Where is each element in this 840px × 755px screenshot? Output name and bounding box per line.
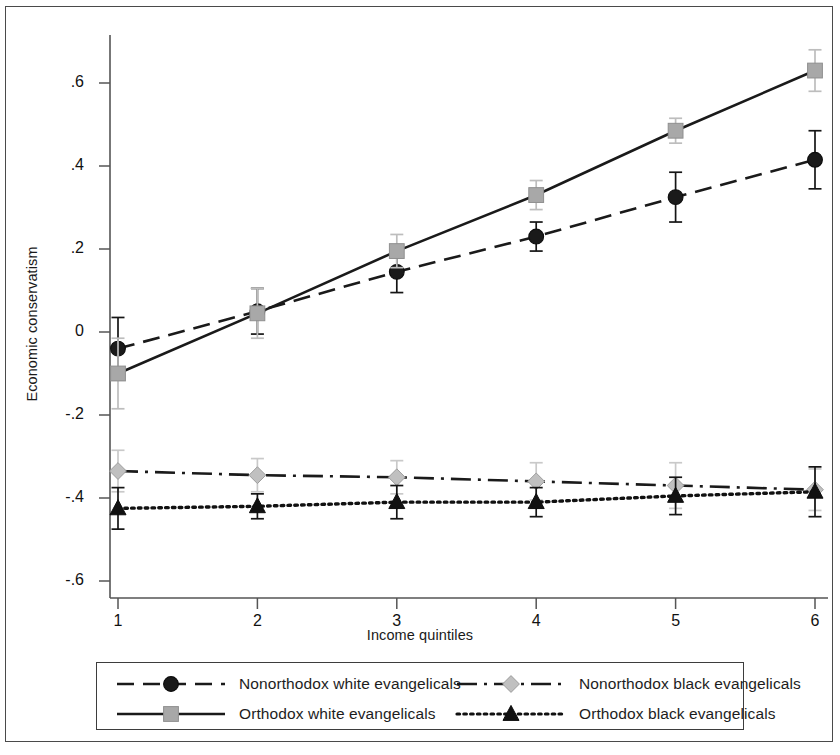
x-axis-tick-label: 5 — [656, 612, 696, 630]
data-point-marker — [668, 190, 683, 205]
chart-screenshot: Economic conservatism Income quintiles .… — [0, 0, 840, 755]
data-point-marker — [164, 707, 179, 722]
legend-marker-diamond-icon — [455, 673, 567, 695]
data-point-marker — [111, 366, 126, 381]
series-circle — [111, 131, 823, 380]
series-line — [118, 160, 815, 349]
chart-legend: Nonorthodox white evangelicalsOrthodox w… — [96, 662, 744, 730]
legend-marker-triangle-icon — [455, 703, 567, 725]
data-point-marker — [250, 306, 265, 321]
x-axis-tick-label: 2 — [237, 612, 277, 630]
series-square — [111, 50, 823, 409]
data-point-marker — [110, 463, 127, 480]
legend-entry: Orthodox white evangelicals — [115, 699, 436, 729]
y-axis-tick-label: -.6 — [32, 571, 84, 589]
y-axis-tick-label: -.4 — [32, 488, 84, 506]
legend-label: Orthodox black evangelicals — [579, 705, 776, 723]
data-point-marker — [503, 676, 520, 693]
data-point-marker — [529, 229, 544, 244]
legend-marker-circle-icon — [115, 673, 227, 695]
x-axis-tick-label: 4 — [516, 612, 556, 630]
y-axis-tick-label: -.2 — [32, 405, 84, 423]
data-point-marker — [389, 244, 404, 259]
data-point-marker — [808, 63, 823, 78]
y-axis-tick-label: .2 — [32, 239, 84, 257]
legend-marker-square-icon — [115, 703, 227, 725]
series-line — [118, 71, 815, 374]
series-line — [118, 471, 815, 490]
y-axis-tick-label: .4 — [32, 156, 84, 174]
y-axis-tick-label: 0 — [32, 322, 84, 340]
data-point-marker — [249, 467, 266, 484]
legend-entry: Nonorthodox white evangelicals — [115, 669, 461, 699]
series-triangle — [110, 467, 823, 529]
legend-entry: Orthodox black evangelicals — [455, 699, 776, 729]
legend-label: Nonorthodox white evangelicals — [239, 675, 461, 693]
series-line — [118, 492, 815, 509]
data-point-marker — [388, 469, 405, 486]
x-axis-tick-label: 1 — [98, 612, 138, 630]
x-axis-tick-label: 3 — [377, 612, 417, 630]
legend-entry: Nonorthodox black evangelicals — [455, 669, 801, 699]
data-point-marker — [164, 677, 179, 692]
data-point-marker — [668, 123, 683, 138]
x-axis-tick-label: 6 — [795, 612, 835, 630]
axes — [99, 35, 828, 609]
data-point-marker — [808, 152, 823, 167]
data-series-group — [110, 50, 824, 529]
data-point-marker — [529, 188, 544, 203]
legend-label: Nonorthodox black evangelicals — [579, 675, 801, 693]
legend-label: Orthodox white evangelicals — [239, 705, 436, 723]
y-axis-tick-label: .6 — [32, 73, 84, 91]
